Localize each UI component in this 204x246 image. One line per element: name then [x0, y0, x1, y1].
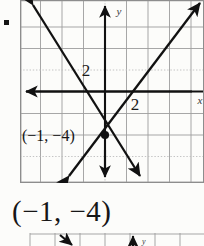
worksheet-page: 2 2 y x (−1, −4) (−1, −4): [0, 0, 204, 246]
next-graph-background: [0, 233, 204, 246]
next-problem-preview: y: [0, 233, 204, 246]
solution-point-dot: [101, 131, 109, 139]
point-coordinate-label: (−1, −4): [22, 127, 75, 145]
x-tick-label: 2: [131, 95, 140, 114]
answer-text: (−1, −4): [12, 190, 202, 232]
graph-svg: 2 2 y x (−1, −4): [20, 0, 204, 183]
problem-bullet-icon: [4, 20, 9, 25]
x-axis-label: x: [197, 94, 203, 106]
y-tick-label: 2: [82, 61, 91, 80]
coordinate-graph: 2 2 y x (−1, −4): [20, 0, 204, 183]
next-problem-svg: y: [0, 233, 204, 246]
y-axis-label: y: [116, 5, 122, 17]
next-y-axis-label: y: [141, 237, 146, 246]
